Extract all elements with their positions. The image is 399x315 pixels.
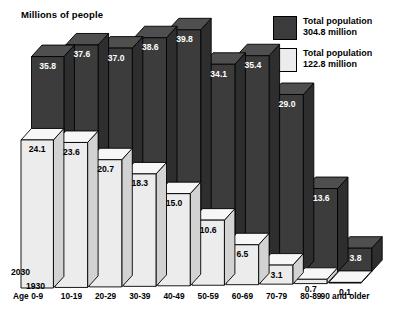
age-label-10-19: 10-19 [61,291,82,301]
chart-plot-area: 35.837.637.038.639.834.135.429.013.63.82… [0,0,399,315]
bar-1930-0-9-front [21,140,53,288]
bar-2030-60-69-side [269,44,280,273]
value-2030-0-9: 35.8 [39,61,56,71]
value-2030-60-69: 35.4 [245,60,262,70]
chart-figure: Millions of people Total population 304.… [0,0,399,315]
age-axis: Age0-910-1920-2930-3940-4950-5960-6970-7… [0,291,399,305]
age-label-20-29: 20-29 [95,291,116,301]
value-1930-40-49: 15.0 [166,198,183,208]
bar-1930-30-39-side [156,162,167,286]
age-axis-caption: Age [13,291,29,301]
value-1930-70-79: 3.1 [271,270,283,280]
year-label-2030: 2030 [11,267,30,277]
age-label-80-89: 80-89 [300,291,321,301]
bar-1930-90 and older-front [329,282,361,283]
value-1930-60-69: 6.5 [236,249,248,259]
age-label-60-69: 60-69 [232,291,253,301]
bar-1930-20-29-side [122,148,133,287]
value-1930-50-59: 10.6 [200,225,217,235]
value-2030-30-39: 38.6 [142,42,159,52]
value-1930-0-9: 24.1 [29,144,46,154]
value-2030-70-79: 29.0 [279,99,296,109]
value-1930-30-39: 18.3 [131,178,148,188]
value-2030-40-49: 39.8 [176,34,193,44]
value-1930-10-19: 23.6 [63,147,80,157]
value-2030-50-59: 34.1 [210,69,227,79]
chart-svg: 35.837.637.038.639.834.135.429.013.63.82… [0,0,399,315]
value-2030-10-19: 37.6 [74,49,91,59]
age-label-40-49: 40-49 [163,291,184,301]
year-label-1930: 1930 [26,281,45,291]
bar-2030-80-89-side [338,177,349,272]
value-2030-80-89: 13.6 [313,193,330,203]
age-label-0-9: 0-9 [31,291,43,301]
bar-1930-50-59-side [224,209,235,286]
value-1930-20-29: 20.7 [97,164,114,174]
age-label-30-39: 30-39 [129,291,150,301]
bar-2030-70-79-side [303,83,314,273]
value-2030-20-29: 37.0 [108,53,125,63]
age-label-70-79: 70-79 [266,291,287,301]
age-label-90-and-older: 90 and older [321,291,370,301]
age-label-50-59: 50-59 [198,291,219,301]
bar-1930-10-19-side [88,131,99,287]
value-2030-90 and older: 3.8 [350,253,362,263]
